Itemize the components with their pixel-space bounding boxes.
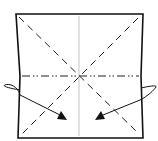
origami-diagram (0, 0, 158, 141)
